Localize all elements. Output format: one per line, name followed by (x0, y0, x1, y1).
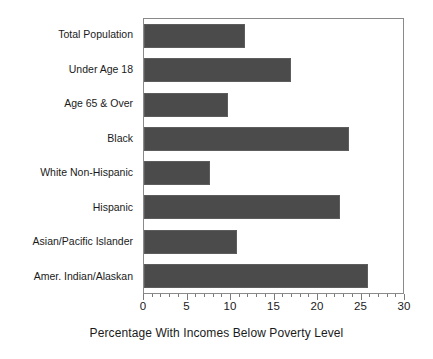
x-minor-tick (239, 294, 240, 297)
x-minor-tick (343, 294, 344, 297)
x-minor-tick (204, 294, 205, 297)
bar (144, 24, 245, 48)
bar-row (144, 88, 403, 122)
category-label: Total Population (58, 29, 133, 41)
bar-row (144, 19, 403, 53)
x-tick-label: 20 (311, 300, 324, 312)
bar (144, 127, 349, 151)
x-tick-label: 25 (354, 300, 367, 312)
x-tick-label: 10 (224, 300, 237, 312)
bar-row (144, 190, 403, 224)
category-label: White Non-Hispanic (40, 167, 133, 179)
x-axis-tick-labels: 051015202530 (143, 300, 405, 316)
category-axis: Total PopulationUnder Age 18Age 65 & Ove… (0, 18, 139, 294)
x-tick-label: 5 (183, 300, 189, 312)
x-minor-tick (256, 294, 257, 297)
category-label-row: Under Age 18 (0, 53, 139, 88)
bar-row (144, 259, 403, 293)
x-minor-tick (178, 294, 179, 297)
bar (144, 161, 210, 185)
x-minor-tick (265, 294, 266, 297)
category-label-row: Total Population (0, 18, 139, 53)
category-label-row: White Non-Hispanic (0, 156, 139, 191)
category-label: Age 65 & Over (64, 98, 133, 110)
bar-row (144, 156, 403, 190)
x-minor-tick (369, 294, 370, 297)
x-tick-label: 0 (140, 300, 146, 312)
poverty-bar-chart: Total PopulationUnder Age 18Age 65 & Ove… (0, 0, 433, 359)
x-minor-tick (152, 294, 153, 297)
category-label-row: Black (0, 122, 139, 157)
x-minor-tick (352, 294, 353, 297)
x-minor-tick (395, 294, 396, 297)
bar-row (144, 53, 403, 87)
x-minor-tick (247, 294, 248, 297)
x-minor-tick (308, 294, 309, 297)
bar (144, 93, 228, 117)
x-tick-label: 30 (398, 300, 411, 312)
x-tick-label: 15 (267, 300, 280, 312)
x-minor-tick (221, 294, 222, 297)
category-label-row: Asian/Pacific Islander (0, 225, 139, 260)
x-minor-tick (300, 294, 301, 297)
bar (144, 230, 237, 254)
bar (144, 58, 291, 82)
x-minor-tick (378, 294, 379, 297)
x-minor-tick (387, 294, 388, 297)
x-minor-tick (169, 294, 170, 297)
x-minor-tick (282, 294, 283, 297)
category-label: Asian/Pacific Islander (33, 236, 133, 248)
x-axis-title: Percentage With Incomes Below Poverty Le… (0, 326, 433, 340)
category-label: Hispanic (93, 202, 133, 214)
bars-layer (144, 19, 403, 293)
category-label: Amer. Indian/Alaskan (34, 271, 133, 283)
bar-row (144, 122, 403, 156)
category-label-row: Amer. Indian/Alaskan (0, 260, 139, 295)
category-label: Under Age 18 (69, 64, 133, 76)
bar-row (144, 225, 403, 259)
bar (144, 264, 368, 288)
x-minor-tick (213, 294, 214, 297)
x-minor-tick (326, 294, 327, 297)
plot-area (143, 18, 404, 294)
x-minor-tick (160, 294, 161, 297)
x-minor-tick (291, 294, 292, 297)
x-minor-tick (195, 294, 196, 297)
category-label-row: Age 65 & Over (0, 87, 139, 122)
bar (144, 195, 340, 219)
category-label: Black (107, 133, 133, 145)
category-label-row: Hispanic (0, 191, 139, 226)
x-minor-tick (334, 294, 335, 297)
